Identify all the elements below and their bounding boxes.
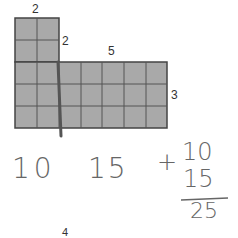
top-height-label: 2 bbox=[62, 35, 69, 47]
handwritten-addend-2: 15 bbox=[183, 165, 214, 193]
handwritten-sum: 25 bbox=[190, 198, 218, 223]
bottom-width-label: 5 bbox=[108, 45, 115, 57]
top-width-label: 2 bbox=[32, 3, 39, 15]
bottom-height-label: 3 bbox=[171, 89, 178, 101]
handwritten-10: 10 bbox=[12, 152, 56, 185]
page-number: 4 bbox=[62, 226, 68, 238]
handwritten-15: 15 bbox=[88, 152, 128, 185]
handwritten-addend-1: 10 bbox=[182, 138, 213, 166]
handwritten-plus: + bbox=[157, 148, 177, 176]
